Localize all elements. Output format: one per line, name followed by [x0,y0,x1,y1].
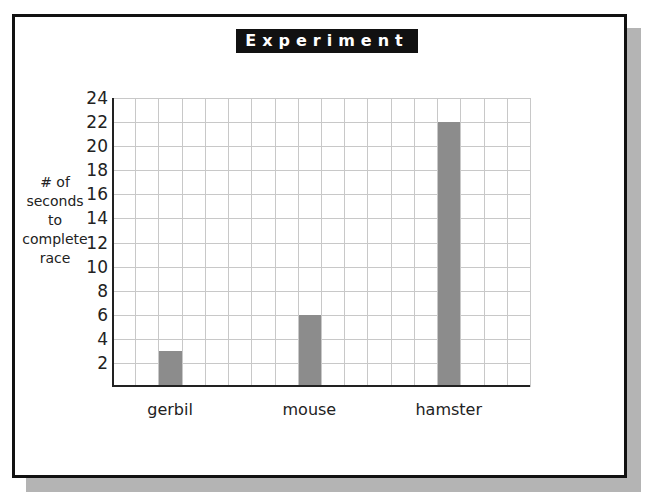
y-tick-label: 14 [80,209,108,227]
x-tick-label: gerbil [120,400,220,419]
y-tick-label: 4 [80,330,108,348]
y-tick-label: 2 [80,354,108,372]
grid-line-vertical [321,98,322,387]
grid-line-vertical [530,98,531,387]
grid-line-vertical [344,98,345,387]
grid-line-vertical [182,98,183,387]
plot-area [112,98,530,387]
grid-line-vertical [414,98,415,387]
grid-line-vertical [205,98,206,387]
grid-line-vertical [484,98,485,387]
grid-line-vertical [391,98,392,387]
chart-title: Experiment 7 [236,29,418,53]
y-axis-line [112,98,114,387]
y-tick-label: 10 [80,258,108,276]
grid-line-vertical [135,98,136,387]
grid-line-vertical [275,98,276,387]
x-axis-line [112,385,530,387]
y-tick-label: 18 [80,161,108,179]
x-tick-label: mouse [259,400,359,419]
y-tick-label: 22 [80,113,108,131]
y-tick-label: 24 [80,89,108,107]
bar-hamster [438,122,460,385]
grid-line-vertical [367,98,368,387]
y-tick-label: 8 [80,282,108,300]
grid-line-vertical [460,98,461,387]
grid-line-vertical [228,98,229,387]
bar-gerbil [159,351,181,385]
grid-line-vertical [507,98,508,387]
y-tick-label: 20 [80,137,108,155]
bar-mouse [299,315,321,385]
y-tick-label: 6 [80,306,108,324]
y-tick-label: 16 [80,185,108,203]
x-tick-label: hamster [399,400,499,419]
y-tick-label: 12 [80,234,108,252]
grid-line-vertical [158,98,159,387]
grid-line-vertical [251,98,252,387]
